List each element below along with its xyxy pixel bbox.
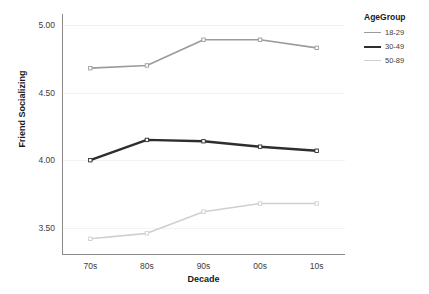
x-tick-label: 70s bbox=[83, 261, 97, 271]
x-axis-title: Decade bbox=[62, 274, 345, 284]
legend-swatch-icon bbox=[364, 60, 381, 61]
gridline-4.50 bbox=[63, 93, 345, 94]
legend-swatch-icon bbox=[364, 32, 381, 33]
x-tick-label: 90s bbox=[197, 261, 211, 271]
x-tick-label: 80s bbox=[140, 261, 154, 271]
legend-item-30-49[interactable]: 30-49 bbox=[364, 42, 426, 51]
legend-swatch-icon bbox=[364, 46, 381, 48]
legend-title: AgeGroup bbox=[364, 12, 426, 22]
legend: AgeGroup 18-2930-4950-89 bbox=[364, 12, 426, 70]
legend-item-18-29[interactable]: 18-29 bbox=[364, 28, 426, 37]
gridline-3.50 bbox=[63, 228, 345, 229]
y-tick-label: 5.00 bbox=[38, 20, 55, 30]
legend-item-50-89[interactable]: 50-89 bbox=[364, 56, 426, 65]
legend-items: 18-2930-4950-89 bbox=[364, 28, 426, 65]
y-tick-label: 4.00 bbox=[38, 155, 55, 165]
legend-item-label: 50-89 bbox=[385, 56, 404, 65]
legend-item-label: 30-49 bbox=[385, 42, 404, 51]
legend-item-label: 18-29 bbox=[385, 28, 404, 37]
y-axis-title: Friend Socializing bbox=[17, 39, 27, 179]
gridline-4.00 bbox=[63, 160, 345, 161]
line-chart: 5.004.504.003.50 70s80s90s00s10s Friend … bbox=[0, 0, 429, 294]
y-tick-label: 3.50 bbox=[38, 223, 55, 233]
plot-area bbox=[62, 14, 345, 255]
x-tick-label: 00s bbox=[253, 261, 267, 271]
x-tick-label: 10s bbox=[310, 261, 324, 271]
y-tick-label: 4.50 bbox=[38, 88, 55, 98]
gridline-5.00 bbox=[63, 25, 345, 26]
